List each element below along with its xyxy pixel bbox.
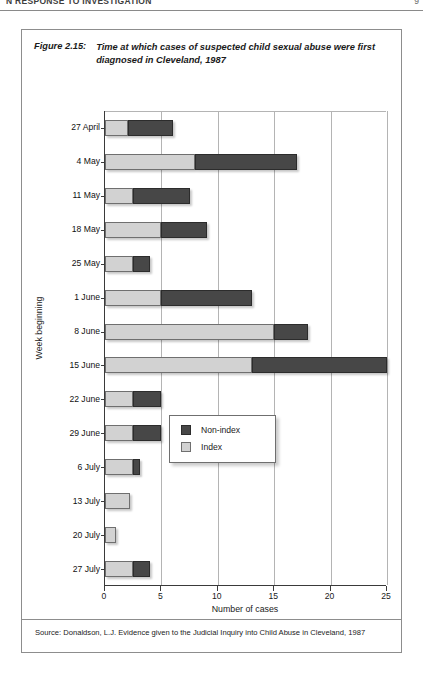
gridline-x-10: [218, 111, 219, 585]
x-axis-label-25: 25: [381, 591, 391, 601]
y-axis-label-27-april: 27 April: [22, 122, 100, 132]
y-axis-label-27-july: 27 July: [22, 564, 100, 574]
bar-row: [105, 391, 387, 407]
y-axis-tick: [101, 162, 105, 163]
y-axis-label-8-june: 8 June: [22, 326, 100, 336]
chart-area: Week beginning 27 April4 May11 May18 May…: [22, 85, 403, 615]
y-axis-label-11-may: 11 May: [22, 190, 100, 200]
x-axis-label-10: 10: [212, 591, 222, 601]
bar-row: [105, 290, 387, 306]
page-number: 9: [414, 0, 419, 6]
bar-row: [105, 357, 387, 373]
bar-segment-non-index: [274, 324, 308, 340]
bar-segment-non-index: [161, 222, 206, 238]
y-axis-labels: 27 April4 May11 May18 May25 May1 June8 J…: [22, 111, 100, 586]
plot-top-border: [105, 111, 386, 112]
bar-segment-non-index: [161, 290, 251, 306]
running-head-text: N RESPONSE TO INVESTIGATION: [6, 0, 152, 5]
figure-container: Figure 2.15: Time at which cases of susp…: [21, 29, 402, 653]
bar-segment-non-index: [195, 154, 297, 170]
bar-segment-non-index: [133, 391, 161, 407]
y-axis-tick: [101, 569, 105, 570]
bar-segment-index: [105, 391, 133, 407]
bar-segment-index: [105, 459, 133, 475]
y-axis-label-18-may: 18 May: [22, 224, 100, 234]
bar-row: [105, 120, 387, 136]
figure-title: Time at which cases of suspected child s…: [96, 41, 392, 66]
gridline-x-25: [387, 111, 388, 585]
figure-caption: Figure 2.15: Time at which cases of susp…: [34, 41, 392, 66]
y-axis-label-13-july: 13 July: [22, 496, 100, 506]
bar-row: [105, 527, 387, 543]
x-axis-label-15: 15: [268, 591, 278, 601]
header-divider: [0, 10, 423, 11]
bar-segment-index: [105, 120, 128, 136]
y-axis-tick: [101, 433, 105, 434]
legend-label-non-index: Non-index: [201, 425, 240, 435]
y-axis-tick: [101, 298, 105, 299]
bar-segment-index: [105, 256, 133, 272]
x-axis-labels: 0510152025: [104, 591, 386, 605]
page-running-head: N RESPONSE TO INVESTIGATION 9: [0, 0, 423, 14]
y-axis-tick: [101, 264, 105, 265]
bar-segment-index: [105, 290, 161, 306]
y-axis-tick: [101, 535, 105, 536]
y-axis-tick: [101, 365, 105, 366]
legend-swatch-non-index: [181, 425, 191, 435]
chart-legend: Non-index Index: [169, 415, 276, 463]
bar-segment-index: [105, 154, 195, 170]
legend-item-non-index: Non-index: [181, 425, 240, 435]
source-divider: [22, 619, 401, 620]
legend-swatch-index: [181, 442, 191, 452]
y-axis-tick: [101, 467, 105, 468]
legend-label-index: Index: [201, 442, 222, 452]
bar-row: [105, 154, 387, 170]
bar-segment-index: [105, 561, 133, 577]
source-note: Source: Donaldson, L.J. Evidence given t…: [35, 628, 365, 637]
plot-region: [104, 111, 386, 586]
bar-row: [105, 188, 387, 204]
bar-segment-non-index: [133, 425, 161, 441]
y-axis-tick: [101, 128, 105, 129]
x-axis-label-20: 20: [325, 591, 335, 601]
gridline-x-20: [331, 111, 332, 585]
x-axis-label-5: 5: [158, 591, 163, 601]
bar-segment-non-index: [252, 357, 387, 373]
legend-item-index: Index: [181, 442, 222, 452]
y-axis-tick: [101, 196, 105, 197]
bar-row: [105, 493, 387, 509]
bar-segment-non-index: [128, 120, 173, 136]
bar-row: [105, 256, 387, 272]
y-axis-label-4-may: 4 May: [22, 156, 100, 166]
y-axis-label-22-june: 22 June: [22, 394, 100, 404]
x-axis-label-0: 0: [102, 591, 107, 601]
y-axis-label-25-may: 25 May: [22, 258, 100, 268]
bar-segment-index: [105, 493, 130, 509]
bar-segment-index: [105, 527, 116, 543]
bar-row: [105, 222, 387, 238]
bar-segment-non-index: [133, 256, 150, 272]
y-axis-label-20-july: 20 July: [22, 530, 100, 540]
y-axis-label-29-june: 29 June: [22, 428, 100, 438]
y-axis-tick: [101, 332, 105, 333]
bar-segment-non-index: [133, 459, 140, 475]
y-axis-label-6-july: 6 July: [22, 462, 100, 472]
bar-segment-index: [105, 425, 133, 441]
y-axis-label-1-june: 1 June: [22, 292, 100, 302]
y-axis-tick: [101, 230, 105, 231]
bar-segment-non-index: [133, 561, 150, 577]
bar-row: [105, 324, 387, 340]
gridline-x-5: [161, 111, 162, 585]
y-axis-label-15-june: 15 June: [22, 360, 100, 370]
y-axis-tick: [101, 501, 105, 502]
bar-segment-index: [105, 324, 274, 340]
figure-label: Figure 2.15:: [34, 41, 96, 51]
y-axis-tick: [101, 399, 105, 400]
gridline-x-15: [274, 111, 275, 585]
bar-segment-index: [105, 357, 252, 373]
bar-row: [105, 561, 387, 577]
bar-segment-index: [105, 188, 133, 204]
bar-segment-non-index: [133, 188, 189, 204]
x-axis-title: Number of cases: [104, 604, 386, 614]
bar-segment-index: [105, 222, 161, 238]
